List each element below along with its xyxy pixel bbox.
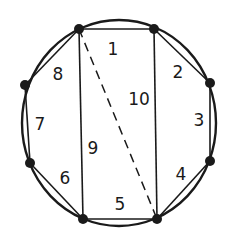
left-vertical <box>79 29 83 219</box>
vertex-dot <box>78 214 88 224</box>
vertex-dot <box>25 158 35 168</box>
vertex-dot <box>149 24 159 34</box>
vertex-dot <box>20 80 30 90</box>
label-4: 4 <box>176 164 187 184</box>
vertex-dot <box>152 214 162 224</box>
label-3: 3 <box>194 110 205 130</box>
label-6: 6 <box>60 168 71 188</box>
label-1: 1 <box>108 39 119 59</box>
label-8: 8 <box>53 64 64 84</box>
label-9: 9 <box>88 138 99 158</box>
label-5: 5 <box>115 194 126 214</box>
label-2: 2 <box>173 62 184 82</box>
vertex-dot <box>205 156 215 166</box>
vertex-dot <box>205 78 215 88</box>
label-10: 10 <box>128 89 150 109</box>
right-vertical <box>154 29 157 219</box>
label-7: 7 <box>35 114 46 134</box>
vertex-dot <box>74 24 84 34</box>
diagram-canvas: 1 2 3 4 5 6 7 8 9 10 <box>0 0 232 249</box>
